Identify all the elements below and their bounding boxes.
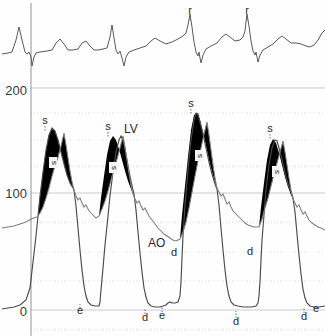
- s-peak-label-3: s: [188, 97, 194, 109]
- s-peak-label-4: s: [267, 122, 273, 134]
- s-peak-label-1: s: [42, 114, 48, 126]
- ao-label: AO: [148, 236, 165, 250]
- y-axis-labels: 200 100 0: [5, 83, 27, 319]
- svg-text:s: s: [49, 161, 58, 165]
- svg-text:s: s: [109, 166, 118, 170]
- hemodynamic-tracing-svg: r r 200 100 0: [0, 0, 325, 336]
- boxed-label-1: s: [49, 157, 58, 168]
- figure-canvas: r r 200 100 0: [0, 0, 325, 336]
- boxed-label-4: s: [272, 166, 281, 177]
- s-peak-label-2: s: [105, 120, 111, 132]
- y-tick-100: 100: [5, 186, 27, 201]
- boxed-label-2: s: [109, 162, 118, 173]
- lv-label: LV: [124, 122, 138, 136]
- d-label-2: d: [247, 245, 253, 257]
- r-label-2: r: [245, 4, 249, 16]
- lv-ao-gradient-shading: [38, 113, 293, 239]
- systolic-peak-labels: s s s s: [42, 97, 273, 140]
- y-tick-200: 200: [5, 83, 27, 98]
- d-label-1: d: [171, 246, 177, 258]
- y-tick-0: 0: [20, 304, 27, 319]
- r-label-1: r: [188, 4, 192, 16]
- ao-systolic-boxed-labels: s s s s: [49, 150, 281, 177]
- boxed-label-3: s: [195, 150, 204, 161]
- grid-lines: [31, 88, 325, 330]
- ecg-trace: [2, 14, 325, 66]
- svg-text:s: s: [195, 154, 204, 158]
- ecg-r-wave-labels: r r: [188, 4, 249, 21]
- svg-text:s: s: [272, 170, 281, 174]
- e-label-1: e: [77, 304, 83, 316]
- event-labels: d d e d e d d e: [77, 245, 319, 327]
- e-label-3: e: [313, 302, 319, 314]
